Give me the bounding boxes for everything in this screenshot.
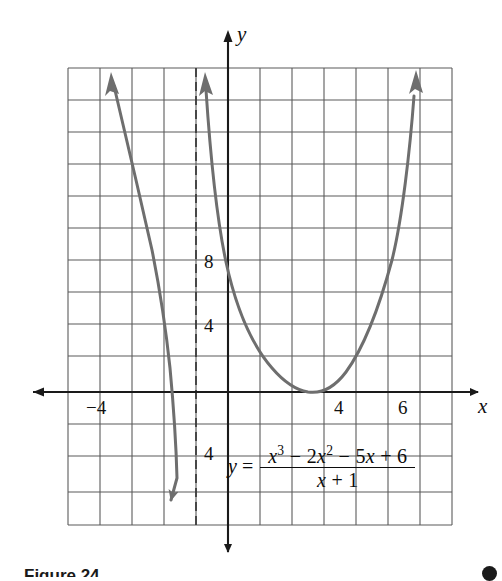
curve-right-branch-end-arrowhead [409,70,423,94]
x-axis-left-arrowhead [33,388,44,397]
figure-caption: Figure 24 [24,566,100,577]
x-tick-label-minus-4: −4 [86,398,106,417]
y-tick-label-4: 4 [204,316,214,335]
equation-numerator: x3 − 2x2 − 5x + 6 [260,444,415,467]
y-axis-top-arrowhead [224,30,233,42]
curve-left-branch-top-arrowhead [105,72,119,96]
y-tick-label-8: 8 [204,252,214,271]
curve-right-branch [206,90,414,392]
page-marker-dot-icon [482,566,497,581]
x-tick-label-6: 6 [398,398,408,417]
equation-equals-sign: = [242,456,253,478]
x-axis-name-label: x [478,396,487,417]
x-tick-label-4: 4 [334,398,344,417]
equation-label: y = x3 − 2x2 − 5x + 6 x + 1 [228,444,415,490]
equation-fraction: x3 − 2x2 − 5x + 6 x + 1 [260,444,415,490]
equation-denominator: x + 1 [309,468,367,490]
y-tick-label-minus-4: 4 [204,444,214,463]
y-axis-name-label: y [237,24,246,45]
curve-left-branch [114,86,177,500]
equation-left-hand-side: y [228,456,237,478]
